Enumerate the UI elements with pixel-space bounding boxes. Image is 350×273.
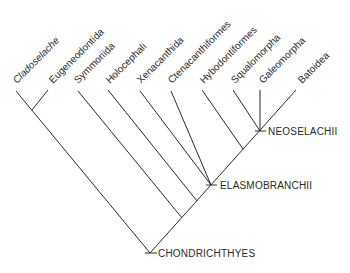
branch-squalomorpha [233, 90, 260, 131]
cladogram: CHONDRICHTHYES ELASMOBRANCHII NEOSELACHI… [0, 0, 350, 273]
branch-hybodontiformes [202, 90, 243, 149]
taxon-label-batoidea: Batoidea [296, 49, 332, 85]
backbone-branch [150, 90, 296, 253]
clade-label-elasmobranchii: ELASMOBRANCHII [220, 180, 312, 191]
clade-label-chondrichthyes: CHONDRICHTHYES [158, 248, 255, 259]
taxon-label-hybodontiformes: Hybodontiformes [198, 24, 259, 85]
branch-eugeneodontida [32, 90, 48, 110]
branch-holocephali [108, 90, 197, 201]
branch-xenacanthida [140, 91, 211, 185]
branch-ctenacanthiformes [171, 91, 211, 185]
branch-symmoriida [78, 91, 182, 218]
clade-label-neoselachii: NEOSELACHII [268, 126, 337, 137]
branch-cladoselache [16, 91, 150, 253]
